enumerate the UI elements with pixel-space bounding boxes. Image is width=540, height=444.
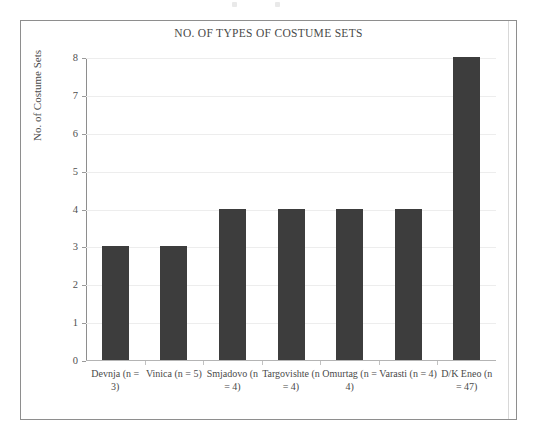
y-axis-tick-label: 4 [73, 204, 78, 215]
bar [278, 209, 305, 361]
x-axis-tick-mark [203, 361, 204, 365]
gridline [86, 172, 496, 173]
bar [395, 209, 422, 361]
gridline [86, 58, 496, 59]
y-axis-tick-label: 0 [73, 356, 78, 367]
frame-inner-rule [508, 21, 509, 419]
y-axis-tick-mark [82, 285, 86, 286]
chart-title: NO. OF TYPES OF COSTUME SETS [21, 27, 516, 39]
y-axis-tick-label: 7 [73, 91, 78, 102]
y-axis-tick-mark [82, 172, 86, 173]
y-axis-tick-mark [82, 58, 86, 59]
x-axis-tick-mark [145, 361, 146, 365]
x-axis-category-label: D/K Eneo (n = 47) [437, 367, 496, 393]
x-axis-category-label: Omurtag (n = 4) [320, 367, 379, 393]
y-axis-tick-mark [82, 247, 86, 248]
x-axis-tick-mark [320, 361, 321, 365]
x-axis-category-label: Vinica (n = 5) [145, 367, 204, 380]
gridline [86, 134, 496, 135]
x-axis-category-label: Targovishte (n = 4) [262, 367, 321, 393]
x-axis-tick-mark [437, 361, 438, 365]
bar [102, 246, 129, 360]
y-axis-tick-label: 1 [73, 318, 78, 329]
y-axis-tick-label: 5 [73, 166, 78, 177]
y-axis-tick-label: 2 [73, 280, 78, 291]
y-axis-tick-label: 3 [73, 242, 78, 253]
y-axis-tick-label: 6 [73, 129, 78, 140]
x-axis-tick-mark [379, 361, 380, 365]
x-axis-category-label: Devnja (n = 3) [86, 367, 145, 393]
y-axis-title: No. of Costume Sets [31, 50, 43, 141]
y-axis-tick-mark [82, 96, 86, 97]
plot-area: 012345678 [86, 58, 496, 361]
bar [336, 209, 363, 361]
y-axis-tick-label: 8 [73, 53, 78, 64]
x-axis-tick-mark [262, 361, 263, 365]
bar [453, 57, 480, 360]
y-axis-tick-mark [82, 134, 86, 135]
x-axis-category-label: Smjadovo (n = 4) [203, 367, 262, 393]
scan-artifact [275, 2, 280, 7]
x-axis-line [86, 360, 496, 361]
bar [219, 209, 246, 361]
figure-frame: NO. OF TYPES OF COSTUME SETS No. of Cost… [20, 20, 517, 420]
x-axis-category-label: Varasti (n = 4) [379, 367, 438, 380]
y-axis-tick-mark [82, 323, 86, 324]
scan-artifact [232, 2, 237, 7]
bar [160, 246, 187, 360]
x-axis-labels: Devnja (n = 3)Vinica (n = 5)Smjadovo (n … [86, 367, 496, 407]
gridline [86, 96, 496, 97]
y-axis-tick-mark [82, 210, 86, 211]
y-axis-tick-mark [82, 361, 86, 362]
